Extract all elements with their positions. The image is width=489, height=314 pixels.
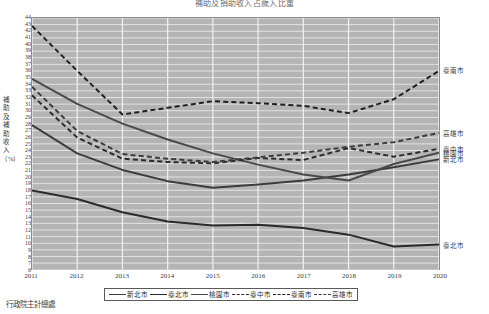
y-axis-tick-labels: 4443424140393837363534333231302928272625…	[14, 17, 31, 270]
legend-swatch-icon	[314, 294, 331, 295]
series-end-label: 臺北市	[443, 242, 464, 249]
chart-legend[interactable]: 新北市臺北市桃園市臺中市臺南市高雄市	[104, 288, 358, 301]
x-axis-tick: 2011	[24, 272, 38, 281]
legend-label: 臺中市	[250, 291, 271, 298]
legend-item[interactable]: 臺中市	[231, 289, 272, 300]
x-axis-tick: 2018	[342, 272, 356, 281]
legend-item[interactable]: 臺北市	[149, 289, 190, 300]
chart-container: 補助及捐助收入占歲入比重 補助及補助收入（%） 4443424140393837…	[0, 0, 489, 314]
x-axis-tick: 2013	[115, 272, 129, 281]
source-note: 行政院主計總處	[6, 300, 55, 309]
series-end-labels: 新北市臺北市桃園市臺中市臺南市高雄市	[443, 0, 489, 280]
legend-label: 高雄市	[332, 291, 353, 298]
series-end-label: 臺南市	[443, 67, 464, 74]
legend-swatch-icon	[273, 294, 290, 295]
legend-item[interactable]: 高雄市	[313, 289, 354, 300]
legend-swatch-icon	[150, 294, 167, 295]
x-axis-tick: 2014	[160, 272, 174, 281]
legend-swatch-icon	[232, 294, 249, 295]
data-series-layer	[32, 18, 439, 269]
x-axis-tick: 2016	[251, 272, 265, 281]
series-end-label: 高雄市	[443, 129, 464, 136]
x-axis-tick: 2015	[206, 272, 220, 281]
legend-label: 新北市	[127, 291, 148, 298]
legend-item[interactable]: 桃園市	[190, 289, 231, 300]
legend-label: 臺北市	[168, 291, 189, 298]
plot-area	[31, 17, 440, 270]
x-axis-tick: 2017	[297, 272, 311, 281]
y-axis-title: 補助及補助收入（%）	[1, 96, 12, 163]
chart-title: 補助及捐助收入占歲入比重	[0, 0, 489, 8]
legend-item[interactable]: 新北市	[108, 289, 149, 300]
x-axis-tick: 2012	[69, 272, 83, 281]
legend-label: 臺南市	[291, 291, 312, 298]
x-axis-tick-labels: 2011201220132014201520162017201820192020	[31, 272, 440, 284]
x-axis-tick: 2019	[388, 272, 402, 281]
series-end-label: 臺中市	[443, 145, 464, 152]
legend-swatch-icon	[191, 294, 208, 295]
series-end-label: 新北市	[443, 156, 464, 163]
legend-label: 桃園市	[209, 291, 230, 298]
legend-swatch-icon	[109, 294, 126, 295]
legend-item[interactable]: 臺南市	[272, 289, 313, 300]
